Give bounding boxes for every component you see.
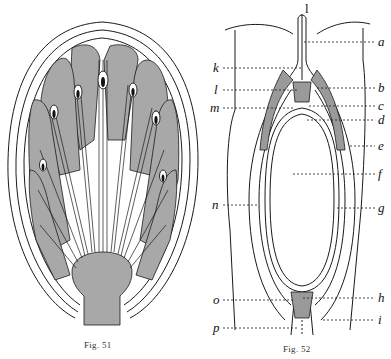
- label-a: a: [378, 35, 385, 48]
- label-b: b: [378, 81, 385, 94]
- figure-51-caption: Fig. 51: [84, 340, 112, 350]
- label-d: d: [378, 113, 385, 126]
- label-l: l: [214, 83, 218, 96]
- figure-52-drawing: [205, 0, 391, 335]
- figure-52-caption: Fig. 52: [283, 344, 311, 354]
- label-p: p: [213, 321, 220, 334]
- label-o: o: [213, 293, 220, 306]
- label-m: m: [210, 101, 219, 114]
- label-f: f: [378, 167, 382, 180]
- label-c: c: [378, 99, 384, 112]
- label-g: g: [378, 201, 385, 214]
- label-top-l: l: [305, 2, 309, 15]
- label-h: h: [378, 291, 385, 304]
- label-k: k: [213, 61, 219, 74]
- label-i: i: [378, 313, 382, 326]
- label-n: n: [212, 198, 219, 211]
- figure-51-drawing: [0, 0, 205, 330]
- label-e: e: [378, 139, 384, 152]
